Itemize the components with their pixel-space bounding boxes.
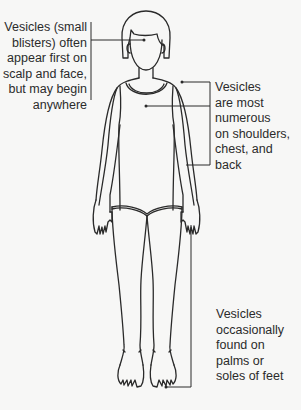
annotation-line: blisters) often bbox=[3, 36, 87, 52]
arm-left-outer bbox=[96, 88, 117, 200]
underwear-top-inner bbox=[112, 208, 182, 216]
annotation-line: soles of feet bbox=[216, 369, 284, 385]
underwear-top bbox=[112, 206, 182, 214]
foot-right bbox=[150, 365, 176, 387]
hair-outline bbox=[122, 11, 170, 58]
annotation-line: chest, and bbox=[215, 142, 290, 158]
ankle-right bbox=[153, 350, 171, 352]
extremities-sole-dot bbox=[165, 386, 168, 389]
annotation-trunk: Vesicles are most numerous on shoulders,… bbox=[215, 80, 290, 173]
annotation-line: Vesicles bbox=[215, 80, 290, 96]
ankle-left bbox=[123, 350, 141, 352]
face-outline bbox=[130, 40, 162, 70]
head-leader-dot bbox=[143, 39, 146, 42]
annotation-line: numerous bbox=[215, 111, 290, 127]
annotation-line: but may begin bbox=[3, 82, 87, 98]
annotation-line: palms or bbox=[216, 354, 284, 370]
tank-armhole-left bbox=[119, 86, 121, 210]
arm-right-outer bbox=[176, 88, 197, 200]
annotation-line: found on bbox=[216, 338, 284, 354]
annotation-line: anywhere bbox=[3, 98, 87, 114]
annotation-line: are most bbox=[215, 96, 290, 112]
trunk-chest-dot bbox=[145, 105, 148, 108]
arm-left-inner bbox=[110, 125, 120, 212]
annotation-line: Vesicles bbox=[216, 307, 284, 323]
arm-right-inner bbox=[173, 125, 183, 212]
annotation-line: on shoulders, bbox=[215, 127, 290, 143]
annotation-line: appear first on bbox=[3, 51, 87, 67]
foot-left bbox=[118, 365, 144, 387]
tank-armhole-right bbox=[172, 86, 174, 210]
trunk-shoulder-dot bbox=[181, 81, 184, 84]
annotation-line: Vesicles (small bbox=[3, 20, 87, 36]
leg-left-inner bbox=[140, 216, 147, 365]
annotation-line: scalp and face, bbox=[3, 67, 87, 83]
annotation-head: Vesicles (small blisters) often appear f… bbox=[3, 20, 87, 113]
annotation-extremities: Vesicles occasionally found on palms or … bbox=[216, 307, 284, 385]
annotation-line: back bbox=[215, 158, 290, 174]
hand-right bbox=[181, 200, 200, 234]
hand-left bbox=[93, 200, 112, 234]
leg-right-inner bbox=[147, 216, 154, 365]
leg-left-outer bbox=[112, 207, 124, 365]
leg-right-outer bbox=[170, 207, 182, 365]
annotation-line: occasionally bbox=[216, 323, 284, 339]
